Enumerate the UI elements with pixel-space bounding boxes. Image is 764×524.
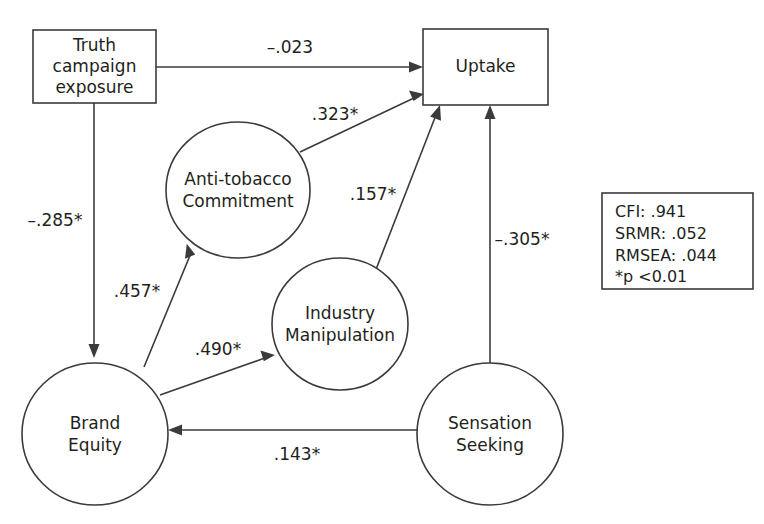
node-label-sensation-line1: Sensation [448, 413, 532, 433]
edge-sensation-to-brand-equity: .143* [168, 425, 418, 465]
edge-brand-equity-to-commitment: .457* [114, 244, 195, 367]
node-label-commitment-line2: Commitment [182, 191, 294, 211]
arrow-head-truth-brand [89, 344, 100, 358]
node-sensation-seeking[interactable]: Sensation Seeking [417, 363, 563, 505]
node-shape-industry[interactable] [272, 258, 408, 390]
edge-commitment-to-uptake: .323* [300, 91, 424, 153]
edge-line-brand-commitment [144, 253, 191, 367]
arrow-head-sensation-brand [168, 425, 182, 436]
edge-label-brand-commitment: .457* [114, 281, 160, 301]
fit-statistic-cfi: CFI: .941 [615, 202, 686, 221]
edge-line-brand-industry [160, 358, 265, 395]
fit-statistic-rmsea: RMSEA: .044 [615, 246, 717, 265]
edge-sensation-to-uptake: –.305* [485, 105, 550, 363]
node-label-truth-line2: campaign [53, 56, 137, 76]
edge-truth-to-uptake: –.023 [156, 37, 423, 73]
fit-statistics-box: CFI: .941 SRMR: .052 RMSEA: .044 *p <0.0… [602, 193, 753, 289]
node-shape-brand[interactable] [22, 363, 168, 505]
edge-label-brand-industry: .490* [195, 339, 241, 359]
node-label-sensation-line2: Seeking [456, 435, 524, 455]
node-label-brand-line1: Brand [70, 413, 121, 433]
edge-label-industry-uptake: .157* [350, 184, 396, 204]
node-label-industry-line2: Manipulation [285, 325, 395, 345]
arrow-head-truth-uptake [409, 62, 423, 73]
fit-statistic-p-note: *p <0.01 [615, 267, 687, 286]
arrow-head-sensation-uptake [485, 105, 496, 119]
node-label-truth-line3: exposure [55, 77, 133, 97]
node-shape-sensation[interactable] [417, 363, 563, 505]
path-diagram-figure: –.023 –.285* .457* .490* .323* [0, 0, 764, 524]
node-label-uptake-line1: Uptake [455, 56, 515, 76]
node-uptake[interactable]: Uptake [423, 29, 548, 105]
arrow-head-brand-commitment [185, 244, 195, 259]
edge-label-sensation-uptake: –.305* [495, 229, 550, 249]
fit-statistic-srmr: SRMR: .052 [615, 224, 707, 243]
edge-truth-to-brand-equity: –.285* [28, 103, 100, 358]
node-label-industry-line1: Industry [305, 303, 375, 323]
node-label-brand-line2: Equity [68, 435, 122, 455]
edge-industry-to-uptake: .157* [350, 105, 441, 272]
edge-brand-equity-to-industry: .490* [160, 339, 275, 395]
edge-label-commitment-uptake: .323* [312, 104, 358, 124]
node-anti-tobacco-commitment[interactable]: Anti-tobacco Commitment [166, 122, 310, 258]
edge-label-truth-uptake: –.023 [267, 37, 313, 57]
node-label-commitment-line1: Anti-tobacco [184, 169, 291, 189]
edge-label-sensation-brand: .143* [274, 444, 320, 464]
node-shape-commitment[interactable] [166, 122, 310, 258]
node-label-truth-line1: Truth [72, 35, 116, 55]
path-diagram-canvas: –.023 –.285* .457* .490* .323* [0, 0, 764, 524]
node-industry-manipulation[interactable]: Industry Manipulation [272, 258, 408, 390]
arrow-head-industry-uptake [430, 105, 441, 121]
node-truth-campaign-exposure[interactable]: Truth campaign exposure [33, 30, 156, 103]
node-brand-equity[interactable]: Brand Equity [22, 363, 168, 505]
edge-label-truth-brand: –.285* [28, 210, 83, 230]
